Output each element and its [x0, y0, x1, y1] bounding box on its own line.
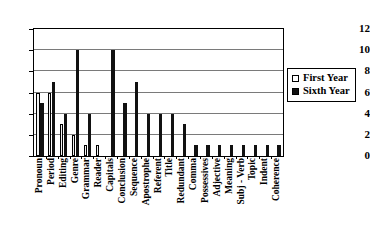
x-axis-label: Sequence [130, 158, 140, 196]
bar-group [164, 29, 176, 156]
bar-sixth-year [266, 145, 269, 156]
x-axis-label: Adjective [213, 158, 223, 197]
bar-first-year [48, 93, 51, 157]
bar-group [34, 29, 46, 156]
bar-group [153, 29, 165, 156]
x-axis-label: Editing [59, 158, 69, 188]
bar-group [236, 29, 248, 156]
y-tick-label: 0 [342, 150, 370, 161]
bar-group [271, 29, 283, 156]
x-axis-label: Conclusion [118, 158, 128, 203]
bar-sixth-year [147, 114, 150, 156]
bar-sixth-year [52, 82, 55, 156]
bar-group [93, 29, 105, 156]
bar-group [81, 29, 93, 156]
bar-group [46, 29, 58, 156]
x-axis-label: Comma [189, 158, 199, 190]
bar-sixth-year [194, 145, 197, 156]
bar-sixth-year [171, 114, 174, 156]
bar-group [70, 29, 82, 156]
bar-sixth-year [123, 103, 126, 156]
x-axis-label: Period [47, 158, 57, 185]
bar-sixth-year [277, 145, 280, 156]
y-tick-label: 4 [342, 108, 370, 119]
bar-group [212, 29, 224, 156]
bar-first-year [60, 124, 63, 156]
x-axis-label: Coherence [272, 158, 282, 201]
x-axis-label: Grammar [82, 158, 92, 199]
x-axis-label: Genre [71, 158, 81, 183]
bar-first-year [96, 145, 99, 156]
bar-group [141, 29, 153, 156]
legend: First YearSixth Year [287, 68, 356, 102]
bar-sixth-year [183, 124, 186, 156]
bar-group [188, 29, 200, 156]
bar-group [259, 29, 271, 156]
bar-first-year [36, 93, 39, 157]
legend-item: Sixth Year [292, 85, 350, 98]
bar-group [105, 29, 117, 156]
bar-sixth-year [88, 114, 91, 156]
bar-sixth-year [230, 145, 233, 156]
x-axis-label: Topic [248, 158, 258, 180]
x-axis-label: Capitals [106, 158, 116, 192]
bar-sixth-year [206, 145, 209, 156]
y-tick-label: 12 [342, 23, 370, 34]
bar-sixth-year [135, 82, 138, 156]
bar-sixth-year [159, 114, 162, 156]
x-axis-label: Redundant [177, 158, 187, 203]
y-tick-label: 2 [342, 129, 370, 140]
bar-chart: 024681012 PronounPeriodEditingGenreGramm… [0, 0, 370, 244]
bar-sixth-year [76, 50, 79, 156]
x-axis-label: Pronoun [35, 158, 45, 193]
bar-group [200, 29, 212, 156]
bar-sixth-year [242, 145, 245, 156]
bar-group [129, 29, 141, 156]
x-axis-label: Referent [154, 158, 164, 193]
bar-first-year [84, 145, 87, 156]
legend-label: First Year [303, 73, 348, 84]
bar-sixth-year [111, 50, 114, 156]
bar-group [117, 29, 129, 156]
filled-square-icon [292, 88, 299, 95]
bar-sixth-year [40, 103, 43, 156]
x-axis-label: Apostrophe [142, 158, 152, 205]
bar-first-year [72, 135, 75, 156]
x-axis-label: Possessives [201, 158, 211, 203]
x-axis-labels: PronounPeriodEditingGenreGrammarReaderCa… [34, 158, 283, 244]
bar-group [176, 29, 188, 156]
bar-sixth-year [218, 145, 221, 156]
bar-group [224, 29, 236, 156]
bar-group [247, 29, 259, 156]
hollow-square-icon [292, 75, 299, 82]
y-tick-label: 10 [342, 44, 370, 55]
x-axis-label: Meaning [225, 158, 235, 194]
x-axis-label: Reader [94, 158, 104, 188]
x-axis-label: Title [165, 158, 175, 177]
legend-item: First Year [292, 72, 350, 85]
legend-label: Sixth Year [303, 86, 350, 97]
x-axis-label: Subj - Verb [237, 158, 247, 204]
bars-layer [34, 29, 283, 156]
bar-sixth-year [64, 114, 67, 156]
bar-group [58, 29, 70, 156]
bar-sixth-year [254, 145, 257, 156]
x-axis-label: Indent [260, 158, 270, 185]
